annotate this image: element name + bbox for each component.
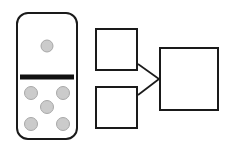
figure-svg xyxy=(0,0,230,146)
domino-pip xyxy=(25,118,38,131)
source-box-top[interactable] xyxy=(96,29,137,70)
domino-pip xyxy=(41,101,54,114)
target-box[interactable] xyxy=(160,48,218,110)
domino-pip xyxy=(57,118,70,131)
domino-pip xyxy=(57,87,70,100)
figure-canvas: Domino tile with arrow diagram of two sq… xyxy=(0,0,230,146)
domino-pip xyxy=(25,87,38,100)
domino-pip xyxy=(41,40,53,52)
domino-tile[interactable] xyxy=(17,13,77,139)
domino-top-half xyxy=(41,40,53,52)
source-box-bottom[interactable] xyxy=(96,87,137,128)
domino-divider-bar xyxy=(20,75,74,80)
